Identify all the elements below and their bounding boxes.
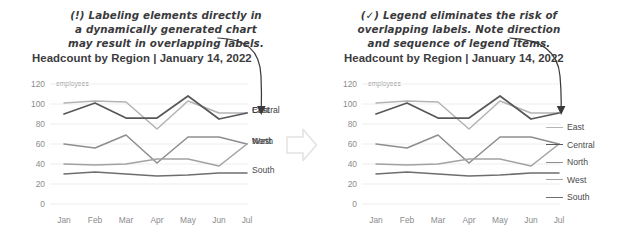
legend-label-central: Central [567, 140, 595, 150]
svg-text:100: 100 [343, 99, 357, 109]
svg-text:Jul: Jul [554, 215, 565, 225]
chart-panel-direct-labels: Headcount by Region | January 14, 2022 e… [16, 52, 288, 238]
svg-text:May: May [180, 215, 197, 225]
svg-text:Jun: Jun [212, 215, 226, 225]
svg-text:0: 0 [40, 199, 45, 209]
legend-item-east[interactable]: East [546, 122, 595, 132]
chart-title-left: Headcount by Region | January 14, 2022 [32, 52, 252, 64]
chart-legend: East Central North West South [546, 122, 595, 202]
svg-text:0: 0 [352, 199, 357, 209]
direct-label-central: Central [252, 105, 280, 115]
legend-item-west[interactable]: West [546, 175, 595, 185]
legend-item-central[interactable]: Central [546, 140, 595, 150]
legend-swatch-west-icon [546, 179, 563, 180]
y-axis-tick-labels-left: 120 100 80 60 40 20 0 [31, 79, 45, 209]
svg-text:60: 60 [348, 139, 358, 149]
direct-label-west: West [252, 136, 271, 146]
svg-text:40: 40 [36, 159, 46, 169]
svg-text:80: 80 [348, 119, 358, 129]
svg-text:Apr: Apr [150, 215, 163, 225]
legend-swatch-east-icon [546, 127, 563, 128]
x-axis-tick-labels-left: Jan Feb Mar Apr May Jun Jul [57, 215, 252, 225]
svg-text:80: 80 [36, 119, 46, 129]
svg-text:Jun: Jun [524, 215, 538, 225]
series-line-south [64, 172, 247, 176]
series-line-central [376, 96, 559, 119]
legend-label-south: South [567, 192, 589, 202]
series-line-east [376, 101, 559, 129]
legend-label-west: West [567, 175, 586, 185]
legend-item-south[interactable]: South [546, 192, 595, 202]
chart-title-right: Headcount by Region | January 14, 2022 [344, 52, 564, 64]
svg-text:Jan: Jan [369, 215, 383, 225]
legend-swatch-north-icon [546, 162, 563, 163]
svg-text:May: May [492, 215, 509, 225]
svg-text:Mar: Mar [119, 215, 134, 225]
svg-text:60: 60 [36, 139, 46, 149]
legend-swatch-south-icon [546, 197, 563, 198]
line-chart-left: 120 100 80 60 40 20 0 Jan Feb Mar Apr Ma… [16, 76, 288, 238]
svg-text:20: 20 [348, 179, 358, 189]
slide-canvas: (!) Labeling elements directly in a dyna… [0, 0, 622, 242]
svg-text:Mar: Mar [431, 215, 446, 225]
svg-text:Apr: Apr [462, 215, 475, 225]
svg-text:Feb: Feb [88, 215, 103, 225]
legend-item-north[interactable]: North [546, 157, 595, 167]
svg-text:120: 120 [343, 79, 357, 89]
legend-swatch-central-icon [546, 144, 563, 145]
plot-area-left: 120 100 80 60 40 20 0 Jan Feb Mar Apr Ma… [16, 76, 288, 238]
series-line-south [376, 172, 559, 176]
series-line-central [64, 96, 247, 119]
svg-text:Jul: Jul [242, 215, 253, 225]
legend-label-north: North [567, 157, 588, 167]
svg-text:Jan: Jan [57, 215, 71, 225]
svg-text:40: 40 [348, 159, 358, 169]
direct-label-south: South [252, 165, 274, 175]
series-line-east [64, 101, 247, 129]
y-axis-tick-labels-right: 120 100 80 60 40 20 0 [343, 79, 357, 209]
transition-right-arrow-icon [286, 128, 318, 162]
svg-text:20: 20 [36, 179, 46, 189]
x-axis-tick-labels-right: Jan Feb Mar Apr May Jun Jul [369, 215, 564, 225]
svg-text:100: 100 [31, 99, 45, 109]
svg-text:Feb: Feb [400, 215, 415, 225]
svg-text:120: 120 [31, 79, 45, 89]
legend-label-east: East [567, 122, 584, 132]
